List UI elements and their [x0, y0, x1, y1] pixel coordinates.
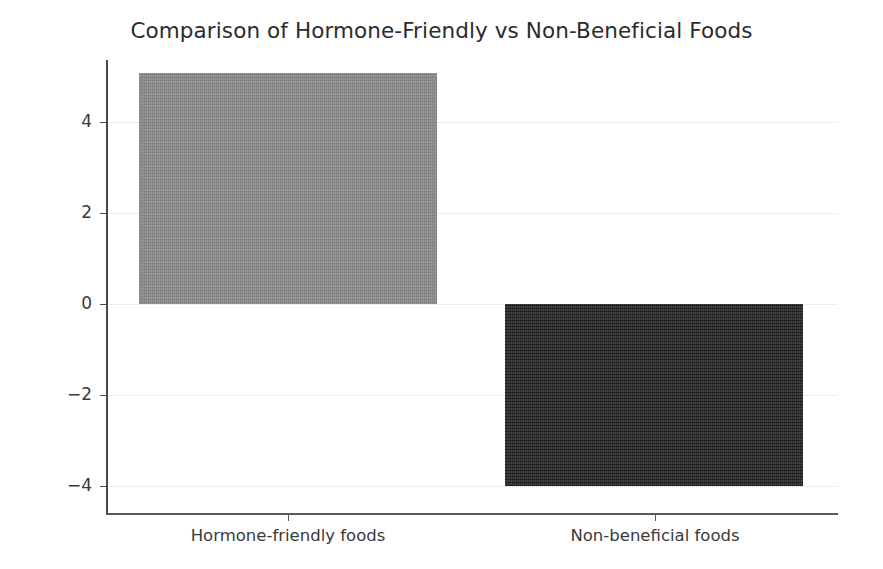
y-tick-mark--4	[100, 486, 106, 487]
x-axis-spine	[106, 513, 838, 515]
y-tick-label--4: −4	[32, 475, 92, 495]
chart-title: Comparison of Hormone-Friendly vs Non-Be…	[0, 18, 883, 44]
x-tick-mark-non-beneficial-foods	[655, 514, 656, 521]
x-tick-mark-hormone-friendly-foods	[288, 514, 289, 521]
y-tick-mark-4	[100, 122, 106, 123]
chart-figure: Comparison of Hormone-Friendly vs Non-Be…	[0, 0, 883, 569]
y-tick-mark-2	[100, 213, 106, 214]
y-tick-label-2: 2	[32, 202, 92, 222]
bar-non-beneficial-foods[interactable]	[505, 304, 803, 486]
y-tick-label-4: 4	[32, 111, 92, 131]
y-tick-label-0: 0	[32, 293, 92, 313]
x-tick-label-hormone-friendly-foods: Hormone-friendly foods	[118, 526, 458, 545]
plot-area: 4 2 0 −2 −4 Hormone-friendly foods Non-b…	[106, 60, 838, 513]
y-tick-mark--2	[100, 395, 106, 396]
x-tick-label-non-beneficial-foods: Non-beneficial foods	[485, 526, 825, 545]
y-tick-label--2: −2	[32, 384, 92, 404]
y-axis-spine	[106, 60, 108, 513]
gridline-y--4	[106, 486, 838, 487]
y-tick-mark-0	[100, 304, 106, 305]
bar-hormone-friendly-foods[interactable]	[139, 73, 437, 304]
